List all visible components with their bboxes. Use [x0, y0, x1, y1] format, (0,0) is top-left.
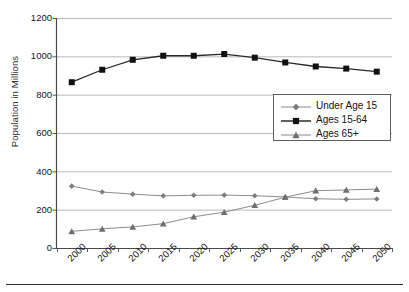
- data-point: [99, 67, 105, 73]
- square-marker-icon: [280, 113, 312, 125]
- triangle-marker-icon: [280, 127, 312, 139]
- data-point: [99, 189, 105, 195]
- data-point: [160, 193, 166, 199]
- data-point: [130, 57, 136, 63]
- legend-item-under-age-15: Under Age 15: [274, 98, 390, 112]
- data-point: [221, 51, 227, 57]
- diamond-marker-icon: [280, 99, 312, 111]
- chart-legend: Under Age 15 Ages 15-64 Ages 65+: [273, 94, 391, 141]
- series-under-age-15: [69, 183, 380, 202]
- legend-item-ages-15-64: Ages 15-64: [274, 112, 390, 126]
- data-point: [191, 192, 197, 198]
- data-point: [191, 53, 197, 59]
- legend-label-ages-15-64: Ages 15-64: [316, 114, 367, 125]
- data-point: [313, 196, 319, 202]
- footer-caption: [8, 286, 401, 292]
- data-point: [252, 193, 258, 199]
- footer-divider: [6, 284, 403, 285]
- legend-label-ages-65-plus: Ages 65+: [316, 128, 359, 139]
- data-point: [343, 197, 349, 203]
- data-point: [69, 79, 75, 85]
- data-point: [252, 55, 258, 61]
- data-point: [282, 59, 288, 65]
- series-ages-15-64: [69, 51, 380, 85]
- data-series-layer: [68, 51, 380, 234]
- data-point: [343, 66, 349, 72]
- series-line: [72, 54, 377, 82]
- data-point: [374, 69, 380, 75]
- population-projection-chart: Population in Millions 1200 1000 800 600…: [0, 0, 409, 292]
- data-point: [130, 191, 136, 197]
- data-point: [313, 63, 319, 69]
- data-point: [160, 53, 166, 59]
- data-point: [69, 183, 75, 189]
- legend-item-ages-65-plus: Ages 65+: [274, 126, 390, 140]
- data-point: [221, 192, 227, 198]
- legend-label-under-age-15: Under Age 15: [316, 100, 377, 111]
- data-point: [374, 196, 380, 202]
